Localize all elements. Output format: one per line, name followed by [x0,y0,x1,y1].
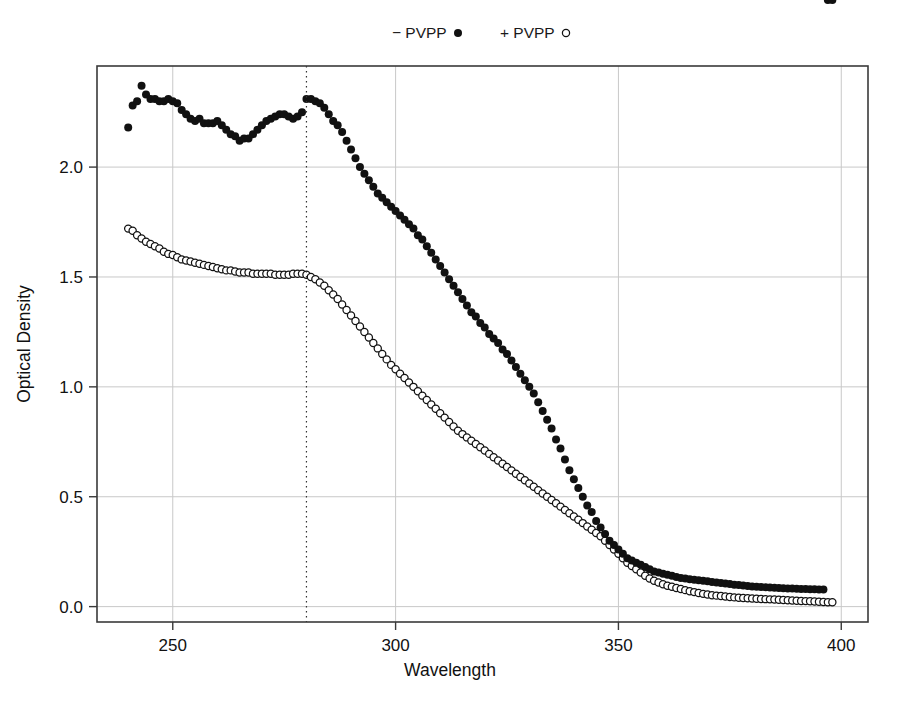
data-point-filled [334,121,342,129]
data-point-filled [423,242,431,250]
data-point-filled [561,455,569,463]
data-point-filled [347,146,355,154]
data-point-filled [565,466,573,474]
data-point-filled [516,370,524,378]
data-point-filled [445,275,453,283]
plot-canvas: 0.00.51.01.52.0250300350400 − PVPP+ PVPP… [0,0,900,703]
legend-marker-filled-circle [454,29,462,37]
data-point-filled [574,484,582,492]
data-point-filled [494,339,502,347]
data-point-filled [369,183,377,191]
y-tick-label: 1.0 [59,378,83,397]
data-point-filled [409,225,417,233]
data-point-filled [458,295,466,303]
data-point-filled [556,444,564,452]
data-point-filled [173,99,181,107]
legend-label-minus-pvpp: − PVPP [392,24,447,41]
data-point-filled [521,376,529,384]
data-point-open [829,599,836,606]
y-tick-label: 2.0 [59,158,83,177]
data-point-filled [427,249,435,257]
data-point-filled [138,82,146,90]
data-point-filled [570,475,578,483]
data-point-filled [365,176,373,184]
data-point-filled [579,493,587,501]
data-point-filled [512,363,520,371]
data-point-filled [592,517,600,525]
data-point-filled [351,154,359,162]
data-point-filled [543,416,551,424]
data-point-filled [597,524,605,532]
data-point-filled [583,502,591,510]
data-point-filled [325,110,333,118]
data-point-filled [588,508,596,516]
y-tick-label: 0.0 [59,598,83,617]
data-point-filled [539,407,547,415]
data-point-filled [124,124,132,132]
legend-marker-open-circle [562,29,569,36]
data-point-filled [548,425,556,433]
x-tick-label: 400 [827,636,855,655]
data-point-filled [463,302,471,310]
y-axis-title: Optical Density [14,285,34,403]
data-point-filled [454,288,462,296]
data-point-filled [356,163,364,171]
data-point-filled [338,128,346,136]
data-point-filled [298,108,306,116]
x-tick-label: 300 [381,636,409,655]
data-point-filled [450,282,458,290]
data-point-filled [343,137,351,145]
data-point-filled [601,530,609,538]
data-point-filled [534,398,542,406]
data-point-filled [418,236,426,244]
y-tick-label: 0.5 [59,488,83,507]
data-point-filled [472,313,480,321]
data-point-filled [525,383,533,391]
legend-label-plus-pvpp: + PVPP [500,24,555,41]
scatter-plot-figure: 0.00.51.01.52.0250300350400 − PVPP+ PVPP… [0,0,900,703]
data-point-filled [133,97,141,105]
data-point-filled [436,262,444,270]
data-point-filled [441,269,449,277]
data-point-filled [432,255,440,263]
data-point-filled [530,389,538,397]
data-point-filled [360,170,368,178]
y-tick-label: 1.5 [59,268,83,287]
data-point-filled [819,585,827,593]
data-point-filled [552,436,560,444]
x-axis-title: Wavelength [404,660,496,680]
data-point-filled [320,104,328,112]
data-point-filled [481,324,489,332]
data-point-filled [503,350,511,358]
x-tick-label: 250 [159,636,187,655]
data-point-filled [507,356,515,364]
x-tick-label: 350 [604,636,632,655]
